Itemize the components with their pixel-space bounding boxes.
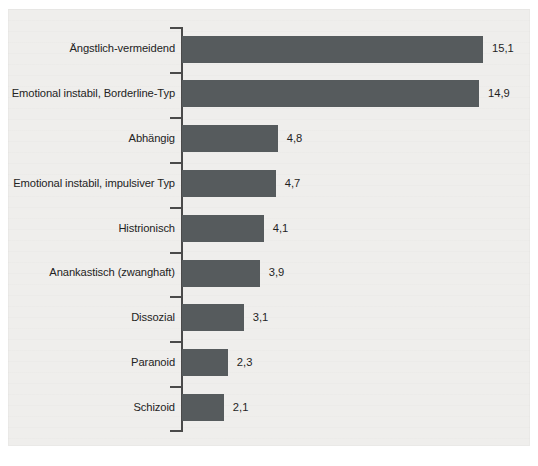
bar-row: Schizoid2,1 bbox=[0, 386, 538, 428]
bar-and-value: 2,3 bbox=[182, 342, 252, 384]
figure-page: Ängstlich-vermeidend15,1Emotional instab… bbox=[0, 0, 538, 466]
bar bbox=[182, 304, 244, 331]
bar-and-value: 15,1 bbox=[182, 28, 514, 70]
category-label: Schizoid bbox=[0, 402, 182, 413]
bar-value-label: 14,9 bbox=[488, 88, 510, 99]
bar-value-label: 4,7 bbox=[285, 178, 301, 189]
bar-and-value: 4,1 bbox=[182, 207, 288, 249]
bar-value-label: 2,3 bbox=[237, 357, 253, 368]
bar-value-label: 2,1 bbox=[233, 402, 249, 413]
bar-chart: Ängstlich-vermeidend15,1Emotional instab… bbox=[0, 0, 538, 466]
category-label: Histrionisch bbox=[0, 223, 182, 234]
bar-row: Anankastisch (zwanghaft)3,9 bbox=[0, 252, 538, 294]
bar-row: Histrionisch4,1 bbox=[0, 207, 538, 249]
category-label: Emotional instabil, Borderline-Typ bbox=[0, 88, 182, 99]
category-label: Dissozial bbox=[0, 312, 182, 323]
bar-and-value: 14,9 bbox=[182, 73, 510, 115]
bar-and-value: 4,8 bbox=[182, 118, 302, 160]
bar-value-label: 4,1 bbox=[273, 223, 289, 234]
bar-value-label: 15,1 bbox=[492, 43, 514, 54]
bar bbox=[182, 125, 278, 152]
bar-row: Dissozial3,1 bbox=[0, 297, 538, 339]
bar bbox=[182, 215, 264, 242]
category-label: Emotional instabil, impulsiver Typ bbox=[0, 178, 182, 189]
bar-row: Ängstlich-vermeidend15,1 bbox=[0, 28, 538, 70]
bar bbox=[182, 36, 483, 63]
bar-value-label: 4,8 bbox=[287, 133, 303, 144]
bar-row: Emotional instabil, impulsiver Typ4,7 bbox=[0, 162, 538, 204]
bar-row: Paranoid2,3 bbox=[0, 342, 538, 384]
bar-and-value: 3,9 bbox=[182, 252, 284, 294]
bar bbox=[182, 170, 276, 197]
bar bbox=[182, 260, 260, 287]
axis-bottom-cap bbox=[170, 430, 183, 432]
bar bbox=[182, 394, 224, 421]
bar-and-value: 2,1 bbox=[182, 386, 248, 428]
category-label: Paranoid bbox=[0, 357, 182, 368]
bar bbox=[182, 80, 479, 107]
bar-value-label: 3,1 bbox=[253, 312, 269, 323]
category-label: Anankastisch (zwanghaft) bbox=[0, 267, 182, 278]
bar-row: Emotional instabil, Borderline-Typ14,9 bbox=[0, 73, 538, 115]
bar-row: Abhängig4,8 bbox=[0, 118, 538, 160]
category-label: Ängstlich-vermeidend bbox=[0, 43, 182, 54]
bar bbox=[182, 349, 228, 376]
category-label: Abhängig bbox=[0, 133, 182, 144]
bar-and-value: 3,1 bbox=[182, 297, 268, 339]
bar-and-value: 4,7 bbox=[182, 162, 300, 204]
bar-value-label: 3,9 bbox=[269, 267, 285, 278]
